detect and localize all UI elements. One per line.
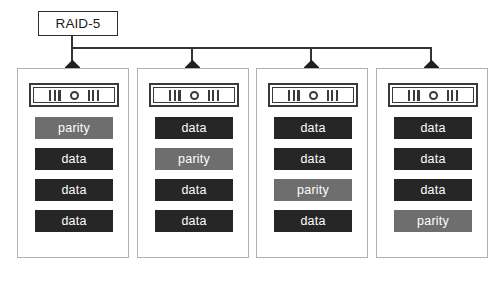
stripe-block-data[interactable]: data bbox=[35, 210, 113, 232]
stripe-list-disk-2: dataparitydatadata bbox=[155, 117, 233, 241]
disk-drive-icon bbox=[149, 83, 239, 107]
drive-vent-right-icon bbox=[88, 90, 100, 101]
disk-drive-glyph-row bbox=[408, 90, 458, 101]
raid-controller-label: RAID-5 bbox=[56, 17, 101, 31]
disk-drive-glyph-row bbox=[288, 90, 338, 101]
stripe-block-data[interactable]: data bbox=[35, 148, 113, 170]
stripe-block-parity[interactable]: parity bbox=[35, 117, 113, 139]
raid-controller-node[interactable]: RAID-5 bbox=[38, 11, 118, 36]
drive-led-icon bbox=[309, 91, 318, 100]
stripe-block-data[interactable]: data bbox=[274, 117, 352, 139]
stripe-block-data[interactable]: data bbox=[274, 210, 352, 232]
disk-panel-2[interactable]: dataparitydatadata bbox=[137, 68, 249, 258]
raid5-diagram: RAID-5 paritydatadatadatadataparitydatad… bbox=[0, 0, 502, 281]
disk-panel-4[interactable]: datadatadataparity bbox=[376, 68, 488, 258]
disk-drive-icon bbox=[388, 83, 478, 107]
disk-drive-glyph-row bbox=[169, 90, 219, 101]
drive-vent-left-icon bbox=[169, 90, 181, 101]
figure-caption bbox=[0, 273, 502, 281]
stripe-block-data[interactable]: data bbox=[394, 148, 472, 170]
stripe-block-data[interactable]: data bbox=[155, 179, 233, 201]
distribution-bus-line bbox=[71, 47, 432, 49]
stripe-block-data[interactable]: data bbox=[155, 210, 233, 232]
drive-vent-right-icon bbox=[208, 90, 220, 101]
stripe-block-parity[interactable]: parity bbox=[274, 179, 352, 201]
disk-panel-3[interactable]: datadataparitydata bbox=[256, 68, 368, 258]
drive-led-icon bbox=[190, 91, 199, 100]
drive-led-icon bbox=[70, 91, 79, 100]
drive-vent-right-icon bbox=[447, 90, 459, 101]
stripe-block-data[interactable]: data bbox=[274, 148, 352, 170]
disk-drive-glyph-row bbox=[49, 90, 99, 101]
disk-panel-1[interactable]: paritydatadatadata bbox=[17, 68, 129, 258]
stripe-block-parity[interactable]: parity bbox=[155, 148, 233, 170]
stripe-block-data[interactable]: data bbox=[394, 117, 472, 139]
stripe-list-disk-4: datadatadataparity bbox=[394, 117, 472, 241]
drive-vent-left-icon bbox=[288, 90, 300, 101]
stripe-block-parity[interactable]: parity bbox=[394, 210, 472, 232]
drive-vent-left-icon bbox=[49, 90, 61, 101]
stripe-block-data[interactable]: data bbox=[155, 117, 233, 139]
disk-drive-icon bbox=[29, 83, 119, 107]
drive-vent-right-icon bbox=[327, 90, 339, 101]
stripe-list-disk-3: datadataparitydata bbox=[274, 117, 352, 241]
stripe-list-disk-1: paritydatadatadata bbox=[35, 117, 113, 241]
stripe-block-data[interactable]: data bbox=[35, 179, 113, 201]
drive-led-icon bbox=[429, 91, 438, 100]
disk-drive-icon bbox=[268, 83, 358, 107]
stripe-block-data[interactable]: data bbox=[394, 179, 472, 201]
drive-vent-left-icon bbox=[408, 90, 420, 101]
